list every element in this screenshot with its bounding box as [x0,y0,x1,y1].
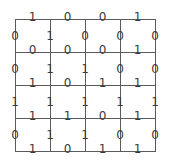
vertical-edge-label: 1 [45,30,55,42]
horizontal-edge-label: 1 [98,143,108,155]
vertical-edge-label: 1 [115,96,125,108]
vertical-edge-label: 0 [115,30,125,42]
horizontal-edge-label: 1 [63,110,73,122]
horizontal-edge-label: 1 [133,77,143,89]
vertical-edge-label: 0 [10,129,20,141]
horizontal-edge-label: 1 [98,77,108,89]
horizontal-edge-label: 1 [28,110,38,122]
vertical-edge-label: 1 [45,129,55,141]
horizontal-edge-label: 0 [63,44,73,56]
vertical-edge-label: 1 [80,96,90,108]
vertical-edge-label: 1 [45,96,55,108]
vertical-edge-label: 0 [10,63,20,75]
vertical-edge-label: 1 [10,96,20,108]
vertical-edge-label: 0 [10,30,20,42]
horizontal-edge-label: 0 [28,44,38,56]
horizontal-edge-label: 0 [63,77,73,89]
vertical-edge-label: 1 [45,63,55,75]
vertical-edge-label: 0 [150,129,160,141]
vertical-edge-label: 1 [80,63,90,75]
horizontal-edge-label: 1 [133,110,143,122]
horizontal-edge-label: 0 [63,11,73,23]
binary-edge-grid: 1001000110111101101101000011001111101100 [0,0,169,164]
vertical-edge-label: 0 [150,63,160,75]
vertical-edge-label: 0 [115,129,125,141]
horizontal-edge-label: 0 [98,44,108,56]
horizontal-edge-label: 1 [28,11,38,23]
vertical-edge-label: 1 [150,96,160,108]
horizontal-edge-label: 0 [98,11,108,23]
horizontal-edge-label: 1 [133,44,143,56]
horizontal-edge-label: 1 [133,143,143,155]
horizontal-edge-label: 1 [133,11,143,23]
horizontal-edge-label: 1 [28,77,38,89]
vertical-edge-label: 0 [115,63,125,75]
vertical-edge-label: 1 [80,129,90,141]
vertical-edge-label: 0 [80,30,90,42]
vertical-edge-label: 0 [150,30,160,42]
horizontal-edge-label: 0 [98,110,108,122]
horizontal-edge-label: 0 [63,143,73,155]
horizontal-edge-label: 1 [28,143,38,155]
